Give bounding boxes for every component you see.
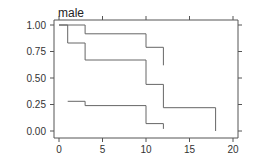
y-tick-label: 0.00 bbox=[27, 126, 47, 137]
x-tick-label: 0 bbox=[56, 144, 62, 155]
y-tick-label: 1.00 bbox=[27, 20, 47, 31]
x-tick-label: 15 bbox=[184, 144, 196, 155]
y-tick-label: 0.75 bbox=[27, 46, 47, 57]
survival-chart: male 0.000.250.500.751.0005101520 bbox=[0, 0, 259, 163]
y-tick-label: 0.25 bbox=[27, 99, 47, 110]
y-tick-label: 0.50 bbox=[27, 73, 47, 84]
axes: 0.000.250.500.751.0005101520 bbox=[27, 16, 242, 155]
survival-curve-curve-2 bbox=[59, 25, 216, 131]
x-tick-label: 10 bbox=[140, 144, 152, 155]
chart-title: male bbox=[58, 6, 84, 20]
x-tick-label: 20 bbox=[227, 144, 239, 155]
plot-area bbox=[59, 25, 216, 131]
survival-curve-curve-3 bbox=[68, 101, 164, 129]
survival-curve-curve-1 bbox=[59, 25, 163, 65]
x-tick-label: 5 bbox=[100, 144, 106, 155]
